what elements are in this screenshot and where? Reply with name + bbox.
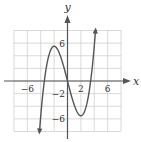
y-tick-label: −6 [52, 114, 66, 124]
x-tick-label: 2 [78, 84, 84, 94]
y-tick-label: 6 [59, 39, 65, 49]
y-axis-label: y [64, 1, 72, 14]
y-tick-label: −2 [52, 89, 65, 99]
y-axis-arrow-icon [65, 15, 71, 23]
x-tick-label: −6 [21, 84, 35, 94]
axes: x y [4, 1, 140, 139]
x-axis-label: x [133, 75, 140, 88]
cubic-function-graph: x y −6266−2−6 [0, 0, 141, 142]
x-axis-arrow-icon [123, 78, 131, 84]
x-tick-label: 6 [105, 84, 111, 94]
